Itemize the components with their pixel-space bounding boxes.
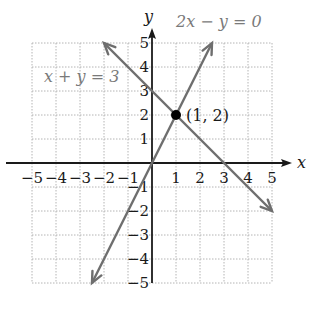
x-tick-label: 5 [267,169,277,187]
intersection-point [171,110,181,120]
x-tick-label: −3 [69,169,91,187]
x-tick-label: −2 [93,169,115,187]
y-tick-label: 4 [139,58,149,76]
coordinate-plane: xy −5−4−3−2−112345−5−4−3−2−112345 x + y … [0,0,310,312]
x-axis-label: x [297,153,306,172]
x-tick-label: −4 [45,169,67,187]
y-tick-label: 1 [139,130,149,148]
x-tick-label: 2 [195,169,205,187]
y-tick-label: −5 [127,274,149,292]
y-tick-label: −4 [127,250,149,268]
intersection-point-label: (1, 2) [186,106,229,125]
x-tick-label: 3 [219,169,229,187]
y-tick-label: 2 [139,106,149,124]
x-tick-label: −5 [21,169,43,187]
axes: xy [6,7,306,283]
equation-label-line1: x + y = 3 [44,67,119,86]
x-tick-label: 1 [171,169,181,187]
y-axis-label: y [143,7,154,26]
y-tick-label: 5 [139,34,149,52]
equation-label-line2: 2x − y = 0 [175,12,262,31]
y-tick-label: −3 [127,226,149,244]
